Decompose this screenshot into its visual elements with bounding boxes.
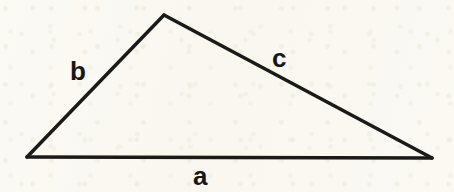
triangle-shape <box>0 0 454 192</box>
side-label-b: b <box>70 58 86 84</box>
triangle-side-a <box>27 157 432 158</box>
triangle-side-c <box>164 15 432 158</box>
triangle-figure: b c a <box>0 0 454 192</box>
side-label-c: c <box>272 45 286 71</box>
triangle-side-b <box>27 15 164 157</box>
side-label-a: a <box>193 163 207 189</box>
